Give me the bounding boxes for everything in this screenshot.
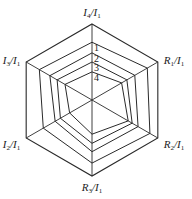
spoke-i3-i1	[26, 62, 92, 100]
axis-label-r1-i1: R1/I1	[163, 54, 185, 68]
axis-label-i3-i1: I3/I1	[2, 54, 21, 68]
series-label-1: 1	[94, 42, 99, 53]
axis-spokes	[26, 24, 158, 176]
spoke-r2-i1	[92, 100, 158, 138]
axis-label-i2-i1: I2/I1	[2, 138, 21, 152]
series-label-4: 4	[94, 72, 99, 83]
radar-chart: 1234 I4/I1R1/I1R2/I1R3/I1I2/I1I3/I1	[0, 0, 192, 199]
axis-label-r2-i1: R2/I1	[163, 138, 185, 152]
axis-label-i4-i1: I4/I1	[82, 6, 101, 20]
axis-label-r3-i1: R3/I1	[81, 181, 103, 195]
series-labels: 1234	[94, 42, 99, 83]
